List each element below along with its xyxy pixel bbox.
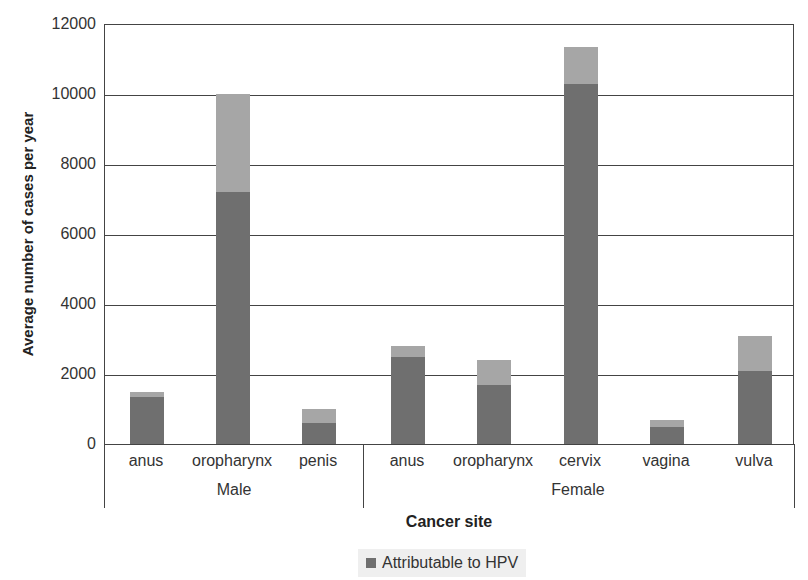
x-category-label: oropharynx (453, 452, 533, 470)
gridline (105, 235, 793, 236)
x-category-label: vulva (735, 452, 772, 470)
bar (477, 360, 511, 444)
y-tick: 6000 (60, 225, 96, 243)
gridline (105, 165, 793, 166)
legend-label: Attributable to HPV (382, 554, 518, 572)
bar (738, 336, 772, 445)
x-axis-group-divider (363, 444, 364, 508)
bar-segment-hpv (130, 397, 164, 444)
legend-swatch-icon (366, 558, 376, 568)
bar (391, 346, 425, 444)
bar-segment-hpv (564, 84, 598, 445)
y-tick: 2000 (60, 365, 96, 383)
x-axis-group-divider (794, 444, 795, 508)
plot-area (104, 24, 794, 444)
x-category-label: anus (129, 452, 164, 470)
bar-segment-hpv (738, 371, 772, 445)
bar (302, 409, 336, 444)
legend: Attributable to HPV (358, 549, 526, 577)
x-group-label-male: Male (217, 481, 252, 499)
bar (650, 420, 684, 445)
gridline (105, 375, 793, 376)
bar-segment-hpv (391, 357, 425, 445)
bar (216, 94, 250, 444)
y-tick: 12000 (52, 15, 97, 33)
x-axis-label: Cancer site (406, 513, 492, 531)
bar (564, 47, 598, 444)
gridline (105, 305, 793, 306)
y-tick: 8000 (60, 155, 96, 173)
x-axis-group-divider (104, 444, 105, 508)
x-category-label: penis (299, 452, 337, 470)
x-category-label: oropharynx (192, 452, 272, 470)
x-category-label: vagina (642, 452, 689, 470)
bar-segment-hpv (650, 427, 684, 445)
y-axis-label: Average number of cases per year (19, 112, 36, 357)
bar-segment-hpv (302, 423, 336, 444)
x-category-label: cervix (559, 452, 601, 470)
bar-segment-hpv (216, 192, 250, 444)
y-tick: 0 (87, 435, 96, 453)
gridline (105, 95, 793, 96)
bar (130, 392, 164, 445)
bar-segment-hpv (477, 385, 511, 445)
y-tick: 4000 (60, 295, 96, 313)
y-tick: 10000 (52, 85, 97, 103)
x-axis-line (104, 444, 794, 445)
x-category-label: anus (390, 452, 425, 470)
x-group-label-female: Female (551, 481, 604, 499)
